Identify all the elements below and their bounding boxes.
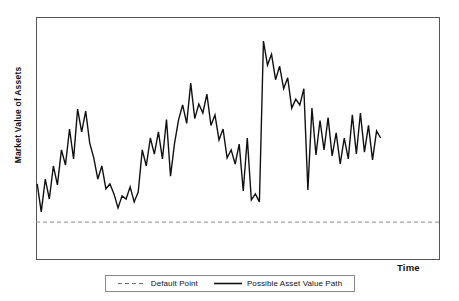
legend-label-default-point: Default Point — [151, 279, 198, 288]
solid-line-swatch — [214, 280, 242, 287]
asset-value-path-line — [37, 41, 380, 212]
chart-figure: Market Value of Assets Time Default Poin… — [0, 0, 459, 301]
dashed-line-swatch — [118, 280, 146, 287]
legend-label-asset-path: Possible Asset Value Path — [247, 279, 342, 288]
y-axis-label: Market Value of Assets — [13, 45, 23, 185]
legend-entry-default-point: Default Point — [118, 279, 198, 288]
legend-entry-asset-path: Possible Asset Value Path — [214, 279, 342, 288]
chart-legend: Default Point Possible Asset Value Path — [105, 275, 355, 292]
series-layer — [36, 17, 440, 260]
x-axis-label: Time — [397, 262, 420, 273]
